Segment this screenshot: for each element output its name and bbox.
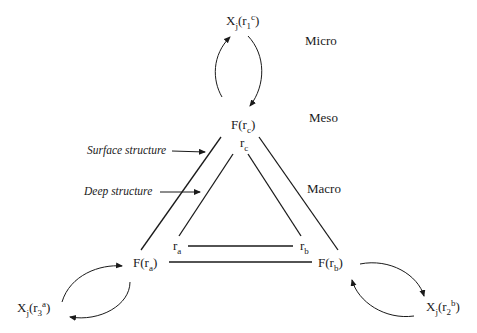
right-loop-up-arrow <box>352 280 414 317</box>
node-x-right: Xj(r2b) <box>426 300 460 313</box>
top-loop-up-arrow <box>215 37 230 97</box>
node-f-rc: F(rc) <box>231 118 255 131</box>
meso-label: Meso <box>309 111 338 124</box>
diagram-canvas <box>0 0 477 333</box>
right-loop-down-arrow <box>360 263 424 296</box>
deep-structure-label: Deep structure <box>84 186 152 198</box>
node-f-ra: F(ra) <box>133 256 157 269</box>
micro-label: Micro <box>305 34 337 47</box>
left-loop-down-arrow <box>70 282 130 318</box>
surface-structure-label: Surface structure <box>87 145 166 157</box>
node-x-left: Xj(r3a) <box>17 301 50 314</box>
macro-label: Macro <box>307 182 341 195</box>
top-loop-down-arrow <box>248 36 262 106</box>
node-rc: rc <box>240 136 248 149</box>
node-x-top: Xj(r1c) <box>226 14 259 27</box>
inner-right-edge <box>248 154 301 236</box>
node-f-rb: F(rb) <box>318 256 343 269</box>
node-rb: rb <box>300 239 309 252</box>
inner-left-edge <box>179 154 233 236</box>
node-ra: ra <box>173 239 181 252</box>
surface-structure-arrow <box>172 151 205 152</box>
left-loop-up-arrow <box>62 266 122 302</box>
